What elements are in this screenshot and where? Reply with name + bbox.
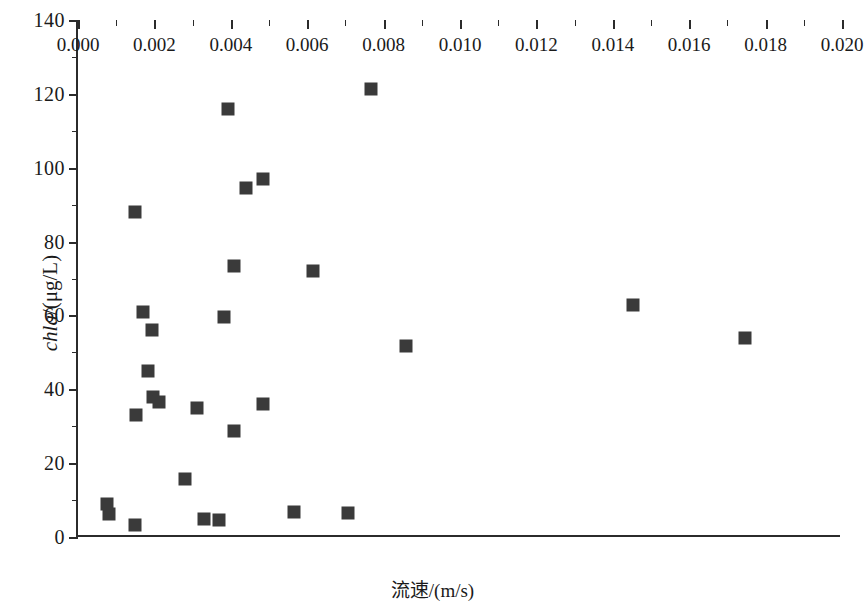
data-point: [257, 172, 270, 185]
x-tick-minor: [804, 20, 805, 26]
data-point: [152, 396, 165, 409]
y-tick-minor: [72, 131, 78, 132]
x-tick-minor: [727, 20, 728, 26]
x-tick: [307, 20, 309, 29]
x-axis-title: 流速/(m/s): [0, 575, 865, 602]
data-point: [222, 102, 235, 115]
y-tick-minor: [72, 57, 78, 58]
x-tick-minor: [498, 20, 499, 26]
y-tick: [69, 389, 78, 391]
y-tick: [69, 168, 78, 170]
x-tick-minor: [345, 20, 346, 26]
y-tick-minor: [72, 352, 78, 353]
data-point: [198, 512, 211, 525]
x-axis-unit: /(m/s): [429, 580, 474, 601]
x-tick-label: 0.016: [668, 34, 711, 56]
y-tick: [69, 463, 78, 465]
x-tick: [154, 20, 156, 29]
data-point: [306, 265, 319, 278]
x-tick: [231, 20, 233, 29]
data-point: [141, 364, 154, 377]
x-tick-label: 0.020: [821, 34, 864, 56]
data-point: [130, 409, 143, 422]
x-tick-label: 0.000: [57, 34, 100, 56]
data-point: [227, 424, 240, 437]
y-tick-label: 80: [44, 230, 65, 253]
data-point: [399, 339, 412, 352]
y-tick: [69, 315, 78, 317]
y-tick-label: 40: [44, 378, 65, 401]
x-tick-label: 0.012: [515, 34, 558, 56]
x-tick-label: 0.010: [439, 34, 482, 56]
y-tick-label: 20: [44, 452, 65, 475]
y-tick-label: 100: [34, 156, 66, 179]
y-tick: [69, 94, 78, 96]
data-point: [102, 507, 115, 520]
data-point: [257, 398, 270, 411]
data-point: [342, 506, 355, 519]
x-tick: [689, 20, 691, 29]
data-point: [227, 259, 240, 272]
y-tick-minor: [72, 279, 78, 280]
y-tick-label: 0: [55, 526, 66, 549]
x-tick-label: 0.002: [133, 34, 176, 56]
y-tick-minor: [72, 500, 78, 501]
data-point: [128, 206, 141, 219]
y-tick-minor: [72, 205, 78, 206]
y-tick: [69, 537, 78, 539]
data-point: [627, 299, 640, 312]
y-tick: [69, 242, 78, 244]
x-tick-minor: [193, 20, 194, 26]
y-tick: [69, 20, 78, 22]
x-tick: [766, 20, 768, 29]
x-tick-minor: [575, 20, 576, 26]
x-tick: [842, 20, 844, 29]
x-tick: [78, 20, 80, 29]
data-point: [191, 401, 204, 414]
x-tick: [384, 20, 386, 29]
data-point: [738, 332, 751, 345]
x-tick: [613, 20, 615, 29]
data-point: [287, 505, 300, 518]
x-tick-minor: [422, 20, 423, 26]
data-point: [146, 324, 159, 337]
data-point: [240, 182, 253, 195]
y-tick-label: 60: [44, 304, 65, 327]
data-point: [364, 83, 377, 96]
data-point: [178, 473, 191, 486]
x-tick-label: 0.008: [362, 34, 405, 56]
x-tick-minor: [651, 20, 652, 26]
x-axis-title-text: 流速: [391, 579, 429, 601]
data-point: [136, 305, 149, 318]
x-tick-minor: [116, 20, 117, 26]
y-tick-label: 140: [34, 9, 66, 32]
y-tick-minor: [72, 426, 78, 427]
x-tick-label: 0.014: [591, 34, 634, 56]
data-point: [217, 311, 230, 324]
scatter-plot-figure: chla/(μg/L) 020406080100120140 0.0000.00…: [0, 0, 865, 606]
data-point: [129, 519, 142, 532]
plot-area: 020406080100120140 0.0000.0020.0040.0060…: [76, 20, 840, 537]
x-tick-minor: [269, 20, 270, 26]
x-tick: [460, 20, 462, 29]
data-point: [212, 514, 225, 527]
x-tick-label: 0.006: [286, 34, 329, 56]
y-tick-label: 120: [34, 82, 66, 105]
x-tick: [536, 20, 538, 29]
x-tick-label: 0.018: [744, 34, 787, 56]
x-tick-label: 0.004: [209, 34, 252, 56]
